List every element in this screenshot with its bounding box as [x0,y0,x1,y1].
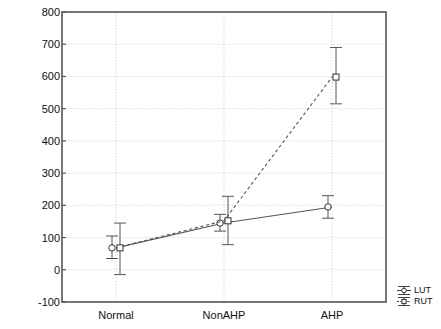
data-point-marker-square[interactable] [333,74,339,80]
x-tick-label-ahp: AHP [321,309,344,321]
chart-figure: Muscle activity (micronV) -1000100200300… [0,0,441,329]
plot-area [0,0,441,329]
x-tick-label-normal: Normal [98,309,133,321]
data-point-marker-circle[interactable] [109,245,115,251]
legend-label-lut: LUT [412,285,431,296]
series-line-lut [116,207,332,248]
data-point-marker-square[interactable] [225,218,231,224]
data-point-marker-circle[interactable] [217,220,223,226]
legend-marker-square-icon [396,296,412,307]
chart-legend: LUT RUT [396,285,440,307]
legend-label-rut: RUT [412,296,433,307]
x-tick-label-nonahp: NonAHP [203,309,246,321]
legend-marker-circle-icon [396,285,412,296]
legend-item-rut[interactable]: RUT [396,296,440,307]
legend-item-lut[interactable]: LUT [396,285,440,296]
data-point-marker-circle[interactable] [325,204,331,210]
data-point-marker-square[interactable] [117,245,123,251]
